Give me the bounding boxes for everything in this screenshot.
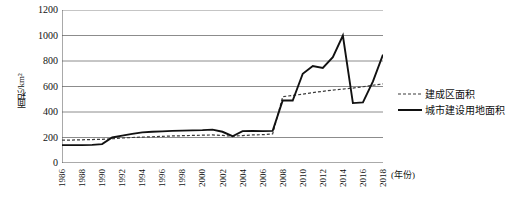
x-tick-label: 2004 <box>239 169 248 187</box>
legend-item: 建成区面积 <box>398 86 526 102</box>
x-tick-label: 2002 <box>219 169 228 187</box>
chart-container: 面积/km² 020040060080010001200 19861988199… <box>0 0 529 214</box>
x-tick-label: 2010 <box>299 169 308 187</box>
x-tick-label: 2008 <box>279 169 288 187</box>
x-tick-label: 2012 <box>319 169 328 187</box>
x-tick-label: 1998 <box>178 169 187 187</box>
x-tick-label: 2014 <box>339 169 348 187</box>
chart-legend: 建成区面积城市建设用地面积 <box>398 86 526 118</box>
x-tick-label: 2016 <box>359 169 368 187</box>
legend-key-dashed <box>398 89 422 99</box>
x-tick-label: 1996 <box>158 169 167 187</box>
x-tick-label: 2006 <box>259 169 268 187</box>
legend-label: 建成区面积 <box>425 89 475 100</box>
x-tick-label: 1992 <box>118 169 127 187</box>
legend-item: 城市建设用地面积 <box>398 102 526 118</box>
legend-label: 城市建设用地面积 <box>425 105 505 116</box>
legend-key-solid <box>398 105 422 115</box>
x-tick-label: 1988 <box>78 169 87 187</box>
x-tick-label: 2018 <box>379 169 388 187</box>
x-tick-label: 1994 <box>138 169 147 187</box>
x-axis-title: (年份) <box>391 170 415 180</box>
x-tick-label: 1986 <box>58 169 67 187</box>
x-tick-label: 2000 <box>198 169 207 187</box>
x-tick-label: 1990 <box>98 169 107 187</box>
